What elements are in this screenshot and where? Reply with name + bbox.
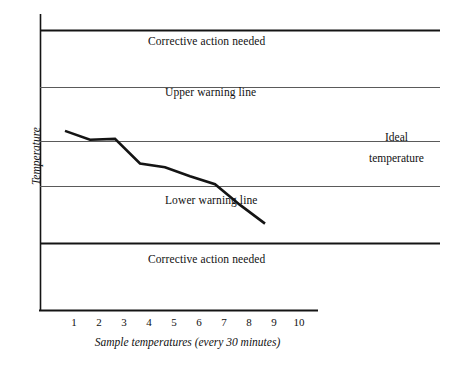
x-tick-9: 9 (264, 316, 284, 328)
control-chart: Corrective action needed Upper warning l… (0, 0, 455, 366)
y-axis-title: Temperature (30, 111, 42, 201)
x-tick-1: 1 (64, 316, 84, 328)
chart-canvas (0, 0, 455, 366)
x-tick-10: 10 (289, 316, 309, 328)
label-upper-warning: Upper warning line (165, 86, 256, 98)
label-upper-corrective: Corrective action needed (148, 35, 265, 47)
label-ideal-top: Ideal (385, 131, 408, 143)
x-tick-7: 7 (214, 316, 234, 328)
label-lower-warning: Lower warning line (165, 194, 258, 206)
x-tick-5: 5 (164, 316, 184, 328)
x-tick-2: 2 (89, 316, 109, 328)
x-tick-8: 8 (239, 316, 259, 328)
x-axis-title: Sample temperatures (every 30 minutes) (0, 336, 375, 348)
x-tick-4: 4 (139, 316, 159, 328)
label-lower-corrective: Corrective action needed (148, 253, 265, 265)
x-tick-3: 3 (114, 316, 134, 328)
label-ideal-bottom: temperature (369, 152, 424, 164)
x-tick-6: 6 (189, 316, 209, 328)
